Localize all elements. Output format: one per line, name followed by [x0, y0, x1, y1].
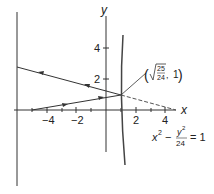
point-label: ( 25 24 , 1 ) [144, 64, 183, 83]
y-tick-label: 4 [94, 42, 100, 54]
point-leader-line [121, 73, 146, 95]
eq-rhs: = 1 [190, 131, 206, 143]
x-tick-label: 4 [162, 114, 168, 126]
radicand-numerator: 25 [157, 65, 165, 72]
eq-y-exp: 2 [182, 125, 186, 131]
eq-x-exp: 2 [158, 129, 162, 136]
x-tick-label: −2 [71, 114, 84, 126]
y-axis-label: y [100, 3, 108, 17]
y-tick-label: 2 [94, 73, 100, 85]
arrow-icon [84, 84, 90, 88]
eq-den: 24 [176, 139, 185, 148]
paren-open: ( [144, 67, 149, 83]
hyperbola-equation: x 2 − y 2 24 = 1 [151, 125, 206, 148]
paren-close: ) [178, 67, 183, 83]
ray-upper-extension [121, 95, 176, 110]
point-sep: , [166, 70, 169, 80]
x-tick-label: 2 [133, 114, 139, 126]
eq-minus: − [165, 131, 171, 143]
ray-upper [17, 67, 121, 95]
hyperbola-diagram: −4 −2 2 4 2 4 x y ( 25 24 , 1 ) x 2 − y … [0, 0, 214, 194]
radicand-denominator: 24 [157, 74, 165, 81]
eq-x: x [151, 131, 158, 143]
x-axis-label: x [180, 103, 188, 117]
hyperbola-right-branch [121, 35, 125, 165]
x-tick-label: −4 [42, 114, 55, 126]
